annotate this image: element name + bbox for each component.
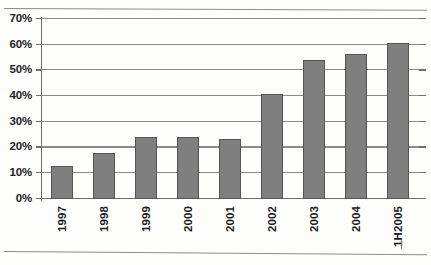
x-axis-label-1998: 1998: [98, 206, 110, 232]
bar-slot: 1998: [83, 19, 125, 199]
bar-2000: [177, 137, 199, 199]
bar-slot: 1999: [125, 19, 167, 199]
y-axis-label: 0%: [16, 192, 32, 204]
bar-1999: [135, 137, 157, 199]
x-axis-label-2001: 2001: [224, 206, 236, 232]
bar-1997: [51, 166, 73, 199]
bar-slot: 2001: [209, 19, 251, 199]
y-axis-label: 10%: [10, 166, 32, 178]
bar-series: 199719981999200020012002200320041H2005: [41, 19, 419, 199]
bar-slot: 1H2005: [377, 19, 419, 199]
plot-area: 0%10%20%30%40%50%60%70% 1997199819992000…: [41, 19, 419, 199]
bar-1998: [93, 153, 115, 199]
bar-1H2005: [387, 43, 409, 199]
bar-2002: [261, 94, 283, 199]
bar-slot: 1997: [41, 19, 83, 199]
page-rule-bottom: [4, 251, 427, 255]
y-axis-label: 50%: [10, 63, 32, 75]
y-tick-right-40%: [419, 95, 426, 96]
y-axis-label: 20%: [10, 140, 32, 152]
page-rule-top: [4, 8, 427, 11]
x-axis-label-1997: 1997: [56, 206, 68, 232]
bar-2003: [303, 60, 325, 199]
x-axis-label-2000: 2000: [182, 206, 194, 232]
x-axis-label-1999: 1999: [140, 206, 152, 232]
x-axis-label-2002: 2002: [266, 206, 278, 232]
y-tick-right-20%: [419, 146, 426, 147]
bar-slot: 2000: [167, 19, 209, 199]
y-tick-right-30%: [419, 121, 426, 122]
chart-page: 0%10%20%30%40%50%60%70% 1997199819992000…: [0, 0, 431, 265]
y-tick-right-70%: [419, 18, 426, 19]
page-mark-icon: [401, 240, 402, 249]
x-axis-label-2004: 2004: [350, 206, 362, 232]
bar-2001: [219, 139, 241, 199]
y-tick-right-10%: [419, 172, 426, 173]
bar-2004: [345, 54, 367, 199]
bar-chart: 0%10%20%30%40%50%60%70% 1997199819992000…: [41, 19, 419, 199]
y-axis-label: 40%: [10, 89, 32, 101]
y-tick-right-50%: [419, 69, 426, 70]
bar-slot: 2002: [251, 19, 293, 199]
y-tick-right-0%: [419, 198, 426, 199]
bar-slot: 2004: [335, 19, 377, 199]
y-axis-label: 30%: [10, 115, 32, 127]
y-tick-right-60%: [419, 44, 426, 45]
x-axis-label-1H2005: 1H2005: [392, 206, 404, 247]
x-axis-label-2003: 2003: [308, 206, 320, 232]
y-axis-label: 60%: [10, 38, 32, 50]
bar-slot: 2003: [293, 19, 335, 199]
y-axis-label: 70%: [10, 12, 32, 24]
